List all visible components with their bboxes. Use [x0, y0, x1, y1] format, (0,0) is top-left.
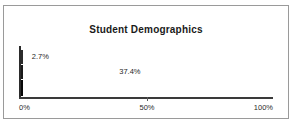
plot-area: 2.7%37.4%84.6% 0%50%100%: [4, 6, 288, 118]
bar-row: 84.6%: [21, 80, 234, 96]
x-axis-line: [19, 97, 273, 99]
x-tick-label: 0%: [19, 103, 30, 112]
bar-value-label: 37.4%: [119, 68, 140, 76]
chart-frame: Student Demographics 2.7%37.4%84.6% 0%50…: [3, 5, 289, 119]
bar-value-label: 2.7%: [32, 53, 49, 61]
x-tick-label: 100%: [254, 103, 273, 112]
bar[interactable]: [21, 80, 23, 96]
bar-row: 2.7%: [21, 50, 28, 64]
bar-row: 37.4%: [21, 65, 115, 79]
x-tick-label: 50%: [139, 103, 154, 112]
x-tick-mark: [147, 97, 148, 101]
bar-value-label: 84.6%: [205, 84, 229, 92]
bar[interactable]: [21, 50, 23, 64]
bar[interactable]: [21, 65, 23, 79]
